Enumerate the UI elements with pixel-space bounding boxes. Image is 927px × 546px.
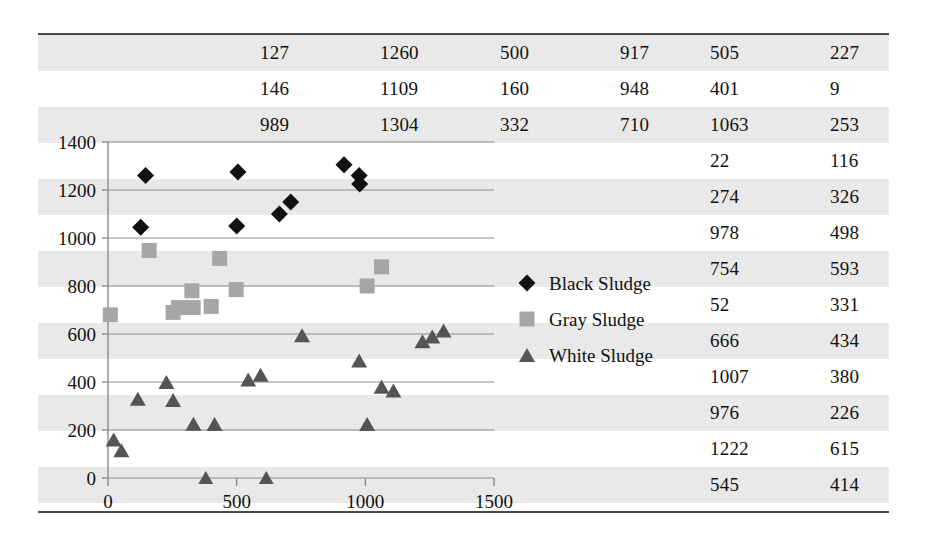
table-cell: 917 <box>620 43 649 63</box>
table-cell: 274 <box>710 187 739 207</box>
table-cell: 1304 <box>380 115 419 135</box>
table-cell: 331 <box>830 295 859 315</box>
table-cell: 1063 <box>710 115 749 135</box>
table-cell: 505 <box>710 43 739 63</box>
table-cell: 253 <box>830 115 859 135</box>
table-cell: 52 <box>710 295 729 315</box>
table-cell: 978 <box>710 223 739 243</box>
table-cell: 710 <box>620 115 649 135</box>
table-cell: 127 <box>260 43 289 63</box>
table-cell: 498 <box>830 223 859 243</box>
table-cell: 666 <box>710 331 739 351</box>
table-cell: 500 <box>500 43 529 63</box>
table-cell: 380 <box>830 367 859 387</box>
table-cell: 976 <box>710 403 739 423</box>
table-cell: 116 <box>830 151 858 171</box>
table-cell: 1260 <box>380 43 419 63</box>
table-cell: 948 <box>620 79 649 99</box>
figure-page: 1271260500917505227146110916094840199891… <box>0 0 927 546</box>
table-cell: 160 <box>500 79 529 99</box>
data-table: 1271260500917505227146110916094840199891… <box>38 33 889 513</box>
table-cell: 326 <box>830 187 859 207</box>
table-cell: 545 <box>710 475 739 495</box>
table-cell: 226 <box>830 403 859 423</box>
table-cell: 9 <box>830 79 840 99</box>
table-cell: 754 <box>710 259 739 279</box>
table-cell: 615 <box>830 439 859 459</box>
table-cells: 1271260500917505227146110916094840199891… <box>38 33 889 513</box>
table-cell: 1109 <box>380 79 418 99</box>
table-cell: 434 <box>830 331 859 351</box>
table-cell: 989 <box>260 115 289 135</box>
table-cell: 593 <box>830 259 859 279</box>
table-cell: 22 <box>710 151 729 171</box>
table-cell: 332 <box>500 115 529 135</box>
table-cell: 1007 <box>710 367 749 387</box>
table-cell: 227 <box>830 43 859 63</box>
table-cell: 414 <box>830 475 859 495</box>
table-cell: 146 <box>260 79 289 99</box>
table-cell: 1222 <box>710 439 749 459</box>
table-cell: 401 <box>710 79 739 99</box>
